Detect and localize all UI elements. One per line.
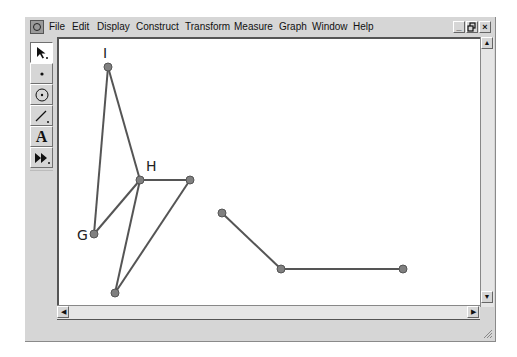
menu-measure[interactable]: Measure bbox=[234, 21, 273, 32]
point-icon bbox=[37, 69, 47, 79]
sketchpad-window: File Edit Display Construct Transform Me… bbox=[25, 17, 496, 342]
fast-forward-icon bbox=[34, 151, 50, 165]
close-button[interactable]: × bbox=[479, 21, 491, 33]
circle-icon bbox=[34, 87, 50, 103]
compass-tool[interactable] bbox=[30, 84, 53, 105]
text-tool[interactable]: A bbox=[30, 126, 53, 147]
menu-construct[interactable]: Construct bbox=[136, 21, 179, 32]
sketch-canvas[interactable] bbox=[57, 37, 482, 307]
restore-button[interactable] bbox=[466, 21, 478, 33]
scroll-left-button[interactable]: ◀ bbox=[57, 306, 69, 318]
menu-transform[interactable]: Transform bbox=[185, 21, 230, 32]
restore-icon bbox=[467, 22, 477, 32]
custom-tool[interactable] bbox=[30, 147, 53, 168]
vertical-scrollbar[interactable]: ▲ ▼ bbox=[480, 37, 494, 307]
toolbox-divider bbox=[30, 170, 53, 171]
window-controls: _ × bbox=[453, 21, 491, 33]
text-icon: A bbox=[36, 128, 48, 146]
menu-edit[interactable]: Edit bbox=[72, 21, 89, 32]
straightedge-tool[interactable] bbox=[30, 105, 53, 126]
menu-file[interactable]: File bbox=[49, 21, 65, 32]
selection-arrow-tool[interactable] bbox=[30, 42, 53, 63]
menu-graph[interactable]: Graph bbox=[279, 21, 307, 32]
arrow-icon bbox=[35, 46, 49, 60]
menu-display[interactable]: Display bbox=[97, 21, 130, 32]
scroll-right-button[interactable]: ▶ bbox=[467, 306, 479, 318]
toolbox: A bbox=[30, 42, 53, 173]
minimize-button[interactable]: _ bbox=[453, 21, 465, 33]
scroll-up-button[interactable]: ▲ bbox=[481, 37, 493, 49]
segment-icon bbox=[34, 108, 50, 124]
point-tool[interactable] bbox=[30, 63, 53, 84]
menu-help[interactable]: Help bbox=[353, 21, 374, 32]
scroll-down-button[interactable]: ▼ bbox=[481, 291, 493, 303]
menu-bar: File Edit Display Construct Transform Me… bbox=[25, 17, 495, 37]
menu-window[interactable]: Window bbox=[312, 21, 348, 32]
resize-grip-icon[interactable] bbox=[483, 329, 493, 339]
horizontal-scrollbar[interactable]: ◀ ▶ bbox=[57, 305, 480, 320]
app-icon[interactable] bbox=[30, 20, 44, 34]
